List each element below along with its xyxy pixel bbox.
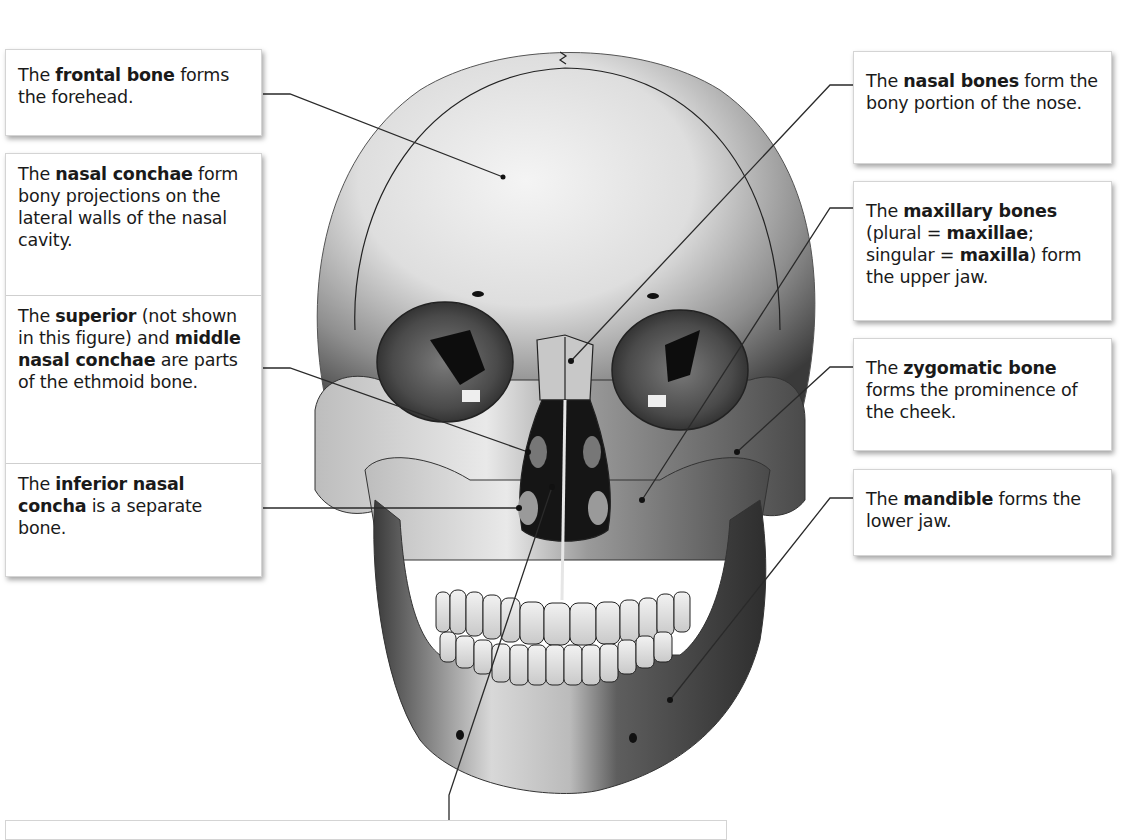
callout-text: The zygomatic bone forms the prominence …: [866, 358, 1077, 422]
text-run: The: [866, 489, 903, 509]
text-run: The: [18, 306, 55, 326]
callout-text: The superior (not shown in this figure) …: [18, 306, 241, 392]
callout-stack-conchae: The nasal conchae form bony projections …: [5, 153, 262, 577]
callout-text: The inferior nasal concha is a separate …: [18, 474, 202, 538]
callout-nasal-bones: The nasal bones form the bony portion of…: [853, 51, 1112, 164]
text-run: The: [866, 201, 903, 221]
callout-text: The frontal bone forms the forehead.: [18, 65, 229, 107]
callout-mandible: The mandible forms the lower jaw.: [853, 469, 1112, 556]
text-run: forms the prominence of the cheek.: [866, 380, 1077, 422]
callout-inferior-nasal-concha: The inferior nasal concha is a separate …: [6, 464, 261, 576]
callout-text: The maxillary bones (plural = maxillae; …: [866, 201, 1081, 287]
text-run: The: [866, 71, 903, 91]
callout-septum-cropped: [5, 820, 727, 840]
text-run: The: [18, 474, 55, 494]
text-run: The: [866, 358, 903, 378]
callout-frontal-bone: The frontal bone forms the forehead.: [5, 49, 262, 136]
bold-term: maxillary bones: [903, 201, 1057, 221]
bold-term: maxilla: [960, 245, 1030, 265]
callout-text: The nasal bones form the bony portion of…: [866, 71, 1098, 113]
callout-text: The nasal conchae form bony projections …: [18, 164, 238, 250]
callout-nasal-conchae: The nasal conchae form bony projections …: [6, 154, 261, 296]
callout-maxillary-bones: The maxillary bones (plural = maxillae; …: [853, 181, 1112, 321]
callout-zygomatic-bone: The zygomatic bone forms the prominence …: [853, 338, 1112, 451]
bold-term: nasal conchae: [55, 164, 192, 184]
bold-term: mandible: [903, 489, 993, 509]
text-run: The: [18, 65, 55, 85]
bold-term: superior: [55, 306, 136, 326]
bold-term: nasal bones: [903, 71, 1019, 91]
bold-term: maxillae: [946, 223, 1027, 243]
bold-term: frontal bone: [55, 65, 174, 85]
text-run: (plural =: [866, 223, 946, 243]
callout-text: The mandible forms the lower jaw.: [866, 489, 1081, 531]
text-run: The: [18, 164, 55, 184]
callout-superior-middle-conchae: The superior (not shown in this figure) …: [6, 296, 261, 464]
bold-term: zygomatic bone: [903, 358, 1056, 378]
